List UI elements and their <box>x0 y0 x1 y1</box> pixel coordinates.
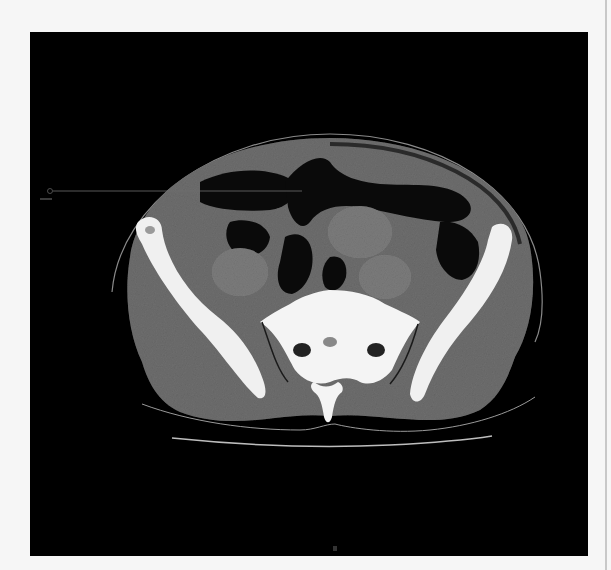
annotation-faint-mark <box>40 198 52 200</box>
annotation-pointer-dot <box>48 189 53 194</box>
orientation-mark <box>333 546 337 551</box>
ct-scan-graphic <box>30 32 588 556</box>
scanner-table <box>172 436 492 446</box>
ct-image-panel <box>30 32 588 556</box>
page-edge-rule <box>605 0 607 570</box>
left-iliac-marrow <box>145 226 155 234</box>
